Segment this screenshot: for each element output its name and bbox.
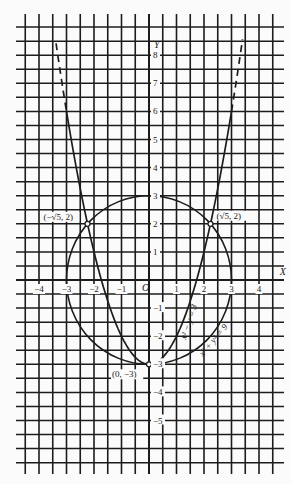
parabola-dashed-left <box>56 43 66 111</box>
intersection-point <box>208 221 213 226</box>
y-tick-label: 5 <box>153 135 158 145</box>
x-tick-label: −4 <box>34 284 44 294</box>
point-label: (0, −3) <box>112 369 137 379</box>
x-tick-label: −1 <box>117 284 127 294</box>
y-tick-label: −3 <box>153 359 163 369</box>
y-tick-label: 6 <box>153 106 158 116</box>
y-tick-label: 3 <box>153 191 158 201</box>
x-axis-label: X <box>279 266 287 277</box>
intersection-point <box>147 362 152 367</box>
y-tick-label: −2 <box>153 331 163 341</box>
x-tick-label: 4 <box>257 284 262 294</box>
x-tick-label: −2 <box>89 284 99 294</box>
x-tick-label: 2 <box>202 284 207 294</box>
y-tick-label: 2 <box>153 219 158 229</box>
y-tick-label: 4 <box>153 163 158 173</box>
grid-lines <box>16 14 284 474</box>
origin-label: O <box>142 282 149 293</box>
graph-canvas: YXO−4−3−2−1123487654321−1−2−3−4−5(−√5, 2… <box>0 0 291 484</box>
x-tick-label: 3 <box>229 284 234 294</box>
y-tick-label: 7 <box>153 78 158 88</box>
circle-equation-label: x² + y² = 9 <box>196 322 230 359</box>
parabola-dashed-right <box>232 39 243 111</box>
y-tick-label: 8 <box>153 50 158 60</box>
y-tick-label: −5 <box>153 416 163 426</box>
point-label: (√5, 2) <box>216 211 240 221</box>
x-tick-label: 1 <box>174 284 179 294</box>
y-tick-label: −4 <box>153 387 163 397</box>
y-tick-label: −1 <box>153 303 163 313</box>
point-label: (−√5, 2) <box>44 212 74 222</box>
y-tick-label: 1 <box>153 247 158 257</box>
x-tick-label: −3 <box>62 284 72 294</box>
intersection-point <box>85 221 90 226</box>
